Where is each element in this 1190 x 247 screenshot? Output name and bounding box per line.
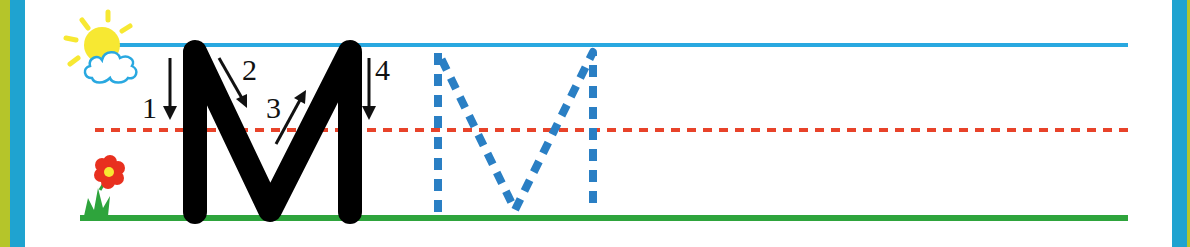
stroke-number-4: 4 (375, 53, 390, 86)
stroke-number-2: 2 (242, 53, 257, 86)
stroke-arrow-1 (163, 58, 177, 120)
stroke-number-3: 3 (266, 91, 281, 124)
stroke-number-1: 1 (142, 91, 157, 124)
stroke-arrow-4 (362, 58, 376, 120)
flower-icon (94, 155, 125, 189)
handwriting-practice-sheet: 1 2 3 4 (0, 0, 1190, 247)
